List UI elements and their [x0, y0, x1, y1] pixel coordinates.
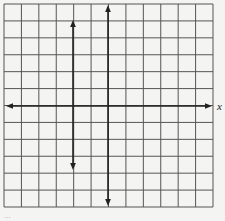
- vertical-line-2-up-arrow-icon: [105, 5, 111, 12]
- x-axis-label: x: [216, 100, 222, 112]
- vertical-line-1-down-arrow-icon: [70, 163, 76, 170]
- x-axis-left-arrow-icon: [6, 103, 13, 109]
- vertical-line-2-down-arrow-icon: [105, 199, 111, 206]
- caption: ...: [4, 211, 11, 220]
- coordinate-grid: x: [0, 0, 225, 221]
- x-axis-right-arrow-icon: [205, 103, 212, 109]
